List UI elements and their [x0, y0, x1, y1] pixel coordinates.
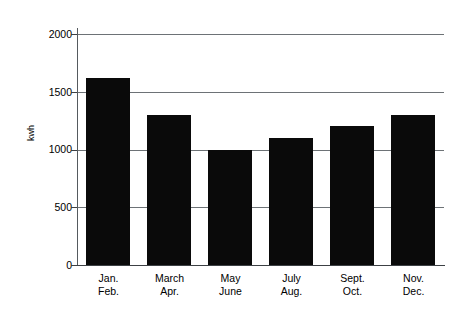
- y-tick-label-2000: 2000: [32, 29, 72, 39]
- x-tick-line2: Oct.: [322, 285, 383, 298]
- x-tick-line2: June: [200, 285, 261, 298]
- y-axis-tick-labels: 2000 1500 1000 500 0: [28, 34, 72, 265]
- y-tickmark-1000: [71, 150, 77, 151]
- x-tick-label-jan-feb: Jan. Feb.: [78, 272, 139, 298]
- x-tick-line1: July: [282, 272, 301, 284]
- plot-area: [78, 34, 444, 265]
- y-tickmark-1500: [71, 92, 77, 93]
- x-tick-line1: Nov.: [403, 272, 424, 284]
- x-tick-line1: March: [155, 272, 184, 284]
- y-tickmark-2000: [71, 34, 77, 35]
- x-tick-label-july-aug: July Aug.: [261, 272, 322, 298]
- x-tick-line1: May: [221, 272, 241, 284]
- x-tick-line2: Aug.: [261, 285, 322, 298]
- gridline-1000: [78, 150, 444, 151]
- bar-sept-oct: [330, 126, 374, 265]
- x-tick-line1: Jan.: [99, 272, 119, 284]
- x-tick-line2: Apr.: [139, 285, 200, 298]
- x-tick-label-march-apr: March Apr.: [139, 272, 200, 298]
- y-tick-label-1500: 1500: [32, 87, 72, 97]
- x-tick-label-may-june: May June: [200, 272, 261, 298]
- x-axis-line: [77, 265, 445, 266]
- x-tick-label-nov-dec: Nov. Dec.: [383, 272, 444, 298]
- bar-july-aug: [269, 138, 313, 265]
- y-tick-label-500: 500: [32, 202, 72, 212]
- bar-march-apr: [147, 115, 191, 265]
- y-tick-label-1000: 1000: [32, 144, 72, 154]
- bar-nov-dec: [391, 115, 435, 265]
- x-axis-tick-labels: Jan. Feb. March Apr. May June July Aug. …: [78, 272, 444, 316]
- y-tick-label-0: 0: [32, 260, 72, 270]
- bar-may-june: [208, 150, 252, 266]
- x-tick-label-sept-oct: Sept. Oct.: [322, 272, 383, 298]
- gridline-1500: [78, 92, 444, 93]
- x-tick-line2: Feb.: [78, 285, 139, 298]
- gridline-2000: [78, 34, 444, 35]
- bar-jan-feb: [86, 78, 130, 265]
- x-tick-line1: Sept.: [340, 272, 365, 284]
- gridline-500: [78, 207, 444, 208]
- x-tick-line2: Dec.: [383, 285, 444, 298]
- y-tickmark-500: [71, 207, 77, 208]
- bar-chart: kwh 2000 1500 1000 500 0 Jan. Feb.: [0, 0, 466, 321]
